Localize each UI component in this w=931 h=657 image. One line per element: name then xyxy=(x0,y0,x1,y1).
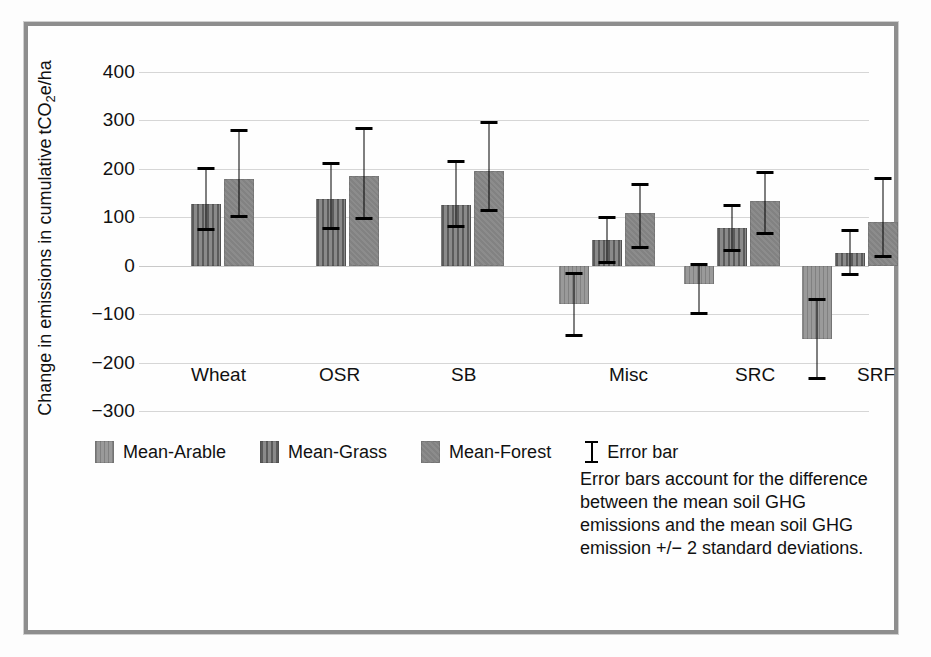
error-bar-cap-top xyxy=(231,129,248,132)
y-axis-tick-label: −200 xyxy=(91,352,135,374)
x-axis-category-label-src: SRC xyxy=(735,364,775,386)
bar-mean-grass-srf xyxy=(835,72,865,411)
y-axis-tick-label: 0 xyxy=(124,255,135,277)
legend-item-mean-forest[interactable]: Mean-Forest xyxy=(421,441,551,463)
error-bar xyxy=(574,272,575,337)
chart-legend: Mean-ArableMean-GrassMean-ForestError ba… xyxy=(95,441,865,463)
error-bar-cap-bottom xyxy=(566,334,583,337)
gridline xyxy=(139,411,869,412)
error-bar-cap-bottom xyxy=(809,377,826,380)
legend-swatch-icon xyxy=(260,441,279,463)
y-axis-title-line2: tCO2e/ha xyxy=(34,60,62,134)
bar-mean-grass-wheat xyxy=(191,72,221,411)
error-bar-cap-top xyxy=(757,171,774,174)
y-axis-tick-label: 100 xyxy=(103,206,135,228)
bar-mean-grass-sb xyxy=(441,72,471,411)
error-bar xyxy=(364,127,365,220)
error-bar-cap-bottom xyxy=(632,246,649,249)
error-bar-cap-bottom xyxy=(231,215,248,218)
error-bar xyxy=(817,298,818,379)
y-axis-tick-label: 400 xyxy=(103,61,135,83)
y-axis-tick-labels: 4003002001000−100−200−300 xyxy=(95,72,135,411)
error-bar xyxy=(883,177,884,258)
error-bar xyxy=(732,204,733,252)
y-axis-tick-label: 300 xyxy=(103,109,135,131)
error-bar-cap-top xyxy=(448,160,465,163)
bar-mean-forest-srf xyxy=(868,72,898,411)
error-bar xyxy=(850,229,851,276)
error-bar xyxy=(640,183,641,249)
x-axis-category-label-srf: SRF xyxy=(857,364,895,386)
bar-mean-grass-osr xyxy=(316,72,346,411)
bar-mean-forest-misc xyxy=(625,72,655,411)
bar-mean-forest-sb xyxy=(474,72,504,411)
y-axis-tick-label: 200 xyxy=(103,158,135,180)
error-bar-cap-top xyxy=(632,183,649,186)
error-bar xyxy=(489,121,490,212)
x-axis-category-label-osr: OSR xyxy=(319,364,360,386)
bar-mean-forest-osr xyxy=(349,72,379,411)
legend-label: Error bar xyxy=(607,442,678,463)
plot-area: WheatOSRSBMiscSRCSRF xyxy=(139,72,869,411)
error-bar-cap-bottom xyxy=(842,273,859,276)
error-bar-cap-top xyxy=(809,298,826,301)
bar-mean-grass-src xyxy=(717,72,747,411)
error-bar xyxy=(699,263,700,315)
error-bar-cap-bottom xyxy=(757,232,774,235)
legend-note-line: emissions and the mean soil GHG xyxy=(580,514,880,537)
x-axis-category-label-sb: SB xyxy=(451,364,476,386)
y-axis-title-line1: Change in emissions in cumulative xyxy=(34,139,56,416)
error-bar-cap-bottom xyxy=(198,228,215,231)
x-axis-category-label-wheat: Wheat xyxy=(191,364,246,386)
legend-note-line: Error bars account for the difference xyxy=(580,468,880,491)
x-axis-category-label-misc: Misc xyxy=(609,364,648,386)
error-bar-cap-top xyxy=(481,121,498,124)
error-bar xyxy=(239,129,240,218)
legend-swatch-icon xyxy=(95,441,114,463)
error-bar-cap-bottom xyxy=(481,209,498,212)
bar-mean-arable-srf xyxy=(802,72,832,411)
error-bar xyxy=(765,171,766,235)
legend-swatch-icon xyxy=(421,441,440,463)
error-bar-cap-top xyxy=(198,167,215,170)
bar-mean-forest-src xyxy=(750,72,780,411)
error-bar-cap-bottom xyxy=(691,312,708,315)
error-bar-cap-top xyxy=(842,229,859,232)
error-bar xyxy=(331,162,332,230)
y-axis-tick-label: −100 xyxy=(91,303,135,325)
error-bar-cap-top xyxy=(356,127,373,130)
bar-mean-forest-wheat xyxy=(224,72,254,411)
error-bar-cap-bottom xyxy=(724,249,741,252)
figure-root: Change in emissions in cumulative tCO2e/… xyxy=(0,0,931,657)
legend-item-mean-arable[interactable]: Mean-Arable xyxy=(95,441,226,463)
error-bar-cap-top xyxy=(566,272,583,275)
error-bar-icon xyxy=(585,441,598,463)
legend-label: Mean-Grass xyxy=(288,442,387,463)
error-bar xyxy=(456,160,457,228)
y-axis-title: Change in emissions in cumulative tCO2e/… xyxy=(34,58,78,418)
error-bar-cap-bottom xyxy=(875,255,892,258)
legend-note-line: emission +/− 2 standard deviations. xyxy=(580,537,880,560)
legend-label: Mean-Forest xyxy=(449,442,551,463)
error-bar-cap-top xyxy=(875,177,892,180)
error-bar-cap-top xyxy=(599,216,616,219)
error-bar-cap-top xyxy=(323,162,340,165)
error-bar-cap-bottom xyxy=(356,217,373,220)
error-bar-cap-top xyxy=(691,263,708,266)
error-bar-cap-bottom xyxy=(599,261,616,264)
error-bar xyxy=(607,216,608,263)
legend-note-line: between the mean soil GHG xyxy=(580,491,880,514)
error-bar-cap-top xyxy=(724,204,741,207)
bar-mean-grass-misc xyxy=(592,72,622,411)
legend-label: Mean-Arable xyxy=(123,442,226,463)
y-axis-tick-label: −300 xyxy=(91,400,135,422)
legend-item-error-bar[interactable]: Error bar xyxy=(585,441,678,463)
legend-item-mean-grass[interactable]: Mean-Grass xyxy=(260,441,387,463)
legend-row: Mean-ArableMean-GrassMean-ForestError ba… xyxy=(95,441,865,463)
error-bar-cap-bottom xyxy=(323,227,340,230)
legend-note: Error bars account for the differencebet… xyxy=(580,468,880,560)
error-bar-cap-bottom xyxy=(448,225,465,228)
bar-mean-arable-misc xyxy=(559,72,589,411)
bar-mean-arable-src xyxy=(684,72,714,411)
error-bar xyxy=(206,167,207,230)
